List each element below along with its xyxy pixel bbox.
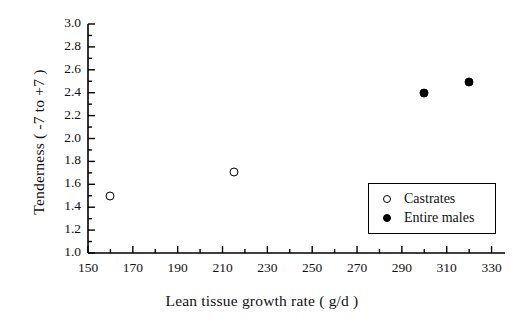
- scatter-chart-figure: Tenderness ( -7 to +7 ) Lean tissue grow…: [0, 0, 524, 324]
- legend-item-castrates: Castrates: [378, 189, 486, 208]
- legend-label-entire-males: Entire males: [396, 210, 474, 226]
- y-tick-label: 1.4: [41, 198, 81, 214]
- data-point-entire-males: [420, 88, 429, 97]
- y-tick-label: 1.2: [41, 221, 81, 237]
- legend-item-entire-males: Entire males: [378, 208, 486, 227]
- y-tick-label: 2.4: [41, 84, 81, 100]
- x-axis-title: Lean tissue growth rate ( g/d ): [0, 292, 524, 310]
- data-point-entire-males: [465, 78, 474, 87]
- y-tick-label: 2.0: [41, 130, 81, 146]
- y-tick-label: 2.8: [41, 38, 81, 54]
- y-tick-label: 2.6: [41, 61, 81, 77]
- x-tick-label: 270: [337, 260, 377, 276]
- legend-label-castrates: Castrates: [396, 191, 455, 207]
- plot-area: Castrates Entire males: [88, 24, 505, 253]
- y-tick-label: 2.2: [41, 107, 81, 123]
- x-tick-label: 310: [427, 260, 467, 276]
- x-tick-label: 250: [292, 260, 332, 276]
- x-tick-label: 290: [382, 260, 422, 276]
- x-tick-label: 330: [472, 260, 512, 276]
- data-point-castrates: [229, 167, 238, 176]
- open-circle-icon: [378, 195, 396, 203]
- x-tick-label: 190: [158, 260, 198, 276]
- y-tick-label: 3.0: [41, 15, 81, 31]
- y-tick-label: 1.0: [41, 244, 81, 260]
- x-tick-label: 150: [68, 260, 108, 276]
- y-tick-label: 1.6: [41, 175, 81, 191]
- y-tick-label: 1.8: [41, 152, 81, 168]
- filled-circle-icon: [378, 214, 396, 222]
- x-tick-label: 230: [247, 260, 287, 276]
- chart-legend: Castrates Entire males: [368, 183, 496, 234]
- x-tick-label: 210: [203, 260, 243, 276]
- x-tick-label: 170: [113, 260, 153, 276]
- data-point-castrates: [106, 191, 115, 200]
